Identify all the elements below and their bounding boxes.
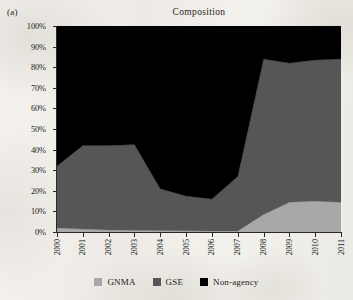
y-axis-labels: 0%10%20%30%40%50%60%70%80%90%100% [0,26,52,232]
y-tick-label: 100% [27,22,46,31]
x-tick-mark [238,233,239,237]
legend-label: Non-agency [213,277,258,287]
x-tick-label: 2007 [233,239,242,255]
y-tick-mark [53,191,57,192]
gse-swatch [153,278,161,286]
composition-figure: (a) Composition 0%10%20%30%40%50%60%70%8… [0,0,353,300]
x-tick-mark [57,233,58,237]
stacked-area-svg [57,26,341,232]
legend-label: GNMA [107,277,135,287]
x-tick-mark [212,233,213,237]
x-tick-label: 2006 [207,239,216,255]
x-tick-mark [83,233,84,237]
y-tick-mark [53,67,57,68]
y-tick-label: 60% [31,104,46,113]
legend-entry: GNMA [94,277,135,287]
y-tick-mark [53,47,57,48]
x-tick-mark [109,233,110,237]
y-tick-mark [53,26,57,27]
x-tick-mark [160,233,161,237]
x-tick-label: 2005 [182,239,191,255]
x-tick-mark [186,233,187,237]
legend-entry: GSE [153,277,183,287]
x-tick-label: 2004 [156,239,165,255]
gnma-swatch [94,278,102,286]
x-tick-mark [315,233,316,237]
x-tick-label: 2011 [337,239,346,255]
y-tick-label: 50% [31,125,46,134]
y-tick-label: 40% [31,145,46,154]
non-agency-swatch [200,278,208,286]
x-axis-line [56,232,342,233]
chart-legend: GNMAGSENon-agency [0,277,353,287]
y-tick-label: 70% [31,83,46,92]
x-tick-label: 2003 [130,239,139,255]
y-tick-mark [53,150,57,151]
x-tick-label: 2009 [285,239,294,255]
y-tick-label: 90% [31,42,46,51]
x-tick-mark [289,233,290,237]
y-tick-label: 30% [31,166,46,175]
x-tick-mark [341,233,342,237]
y-tick-mark [53,129,57,130]
plot-area [57,26,341,232]
y-tick-mark [53,88,57,89]
y-tick-mark [53,108,57,109]
y-tick-label: 0% [35,228,46,237]
y-tick-mark [53,211,57,212]
y-tick-label: 10% [31,207,46,216]
x-tick-mark [264,233,265,237]
x-tick-mark [134,233,135,237]
legend-entry: Non-agency [200,277,258,287]
y-tick-mark [53,170,57,171]
y-tick-label: 80% [31,63,46,72]
panel-label: (a) [7,7,18,17]
y-tick-label: 20% [31,186,46,195]
chart-title: Composition [57,7,341,17]
legend-label: GSE [166,277,183,287]
x-tick-label: 2001 [78,239,87,255]
x-tick-label: 2010 [311,239,320,255]
y-tick-mark [53,232,57,233]
x-tick-label: 2008 [259,239,268,255]
x-tick-label: 2002 [104,239,113,255]
x-tick-label: 2000 [53,239,62,255]
